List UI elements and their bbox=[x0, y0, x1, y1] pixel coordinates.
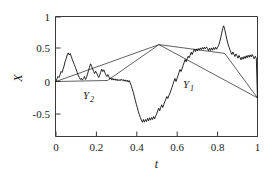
annotation-y1-subscript: 1 bbox=[190, 84, 194, 93]
x-tick-label-0: 0 bbox=[53, 141, 59, 153]
y-tick-marks bbox=[56, 17, 61, 114]
x-tick-label-0p8: 0.8 bbox=[211, 141, 225, 153]
y-tick-label-0p5: 0.5 bbox=[36, 42, 50, 54]
x-tick-label-0p6: 0.6 bbox=[170, 141, 184, 153]
x-tick-label-0p4: 0.4 bbox=[130, 141, 144, 153]
y-tick-label-0: 0 bbox=[45, 76, 51, 88]
figure-container: 1 0.5 0 -0.5 0 0.2 0.4 0.6 0.8 1 t X Y 1… bbox=[0, 0, 272, 177]
data-series-X bbox=[56, 26, 258, 122]
axes-frame bbox=[56, 17, 258, 137]
x-tick-label-1: 1 bbox=[255, 141, 261, 153]
annotation-y1: Y 1 bbox=[183, 78, 194, 93]
y-axis-title: X bbox=[11, 74, 25, 83]
annotation-y2-subscript: 2 bbox=[90, 95, 94, 104]
y-tick-label-neg0p5: -0.5 bbox=[33, 108, 51, 120]
random-walk-trace bbox=[56, 26, 258, 122]
x-tick-label-0p2: 0.2 bbox=[90, 141, 104, 153]
annotation-y2: Y 2 bbox=[83, 89, 94, 104]
chart-canvas: 1 0.5 0 -0.5 0 0.2 0.4 0.6 0.8 1 t X Y 1… bbox=[0, 0, 272, 177]
x-tick-marks bbox=[56, 132, 258, 137]
x-axis-title: t bbox=[155, 157, 159, 171]
plot-frame bbox=[56, 17, 258, 137]
y-tick-label-1: 1 bbox=[45, 11, 51, 23]
